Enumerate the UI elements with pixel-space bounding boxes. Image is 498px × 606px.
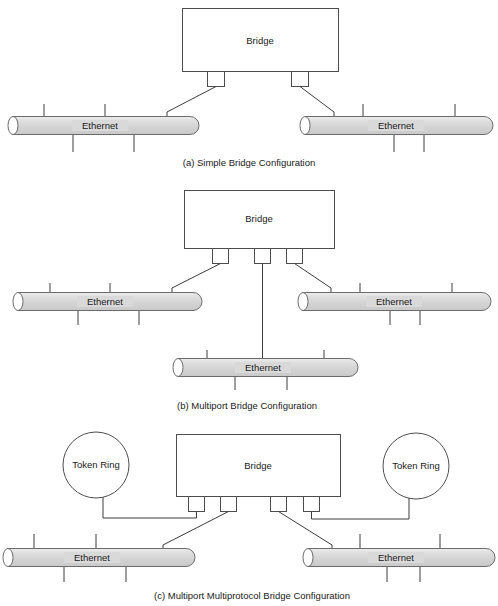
bridge-a-label: Bridge (246, 35, 273, 46)
caption-a: (a) Simple Bridge Configuration (183, 157, 316, 168)
caption-c: (c) Multiport Multiprotocol Bridge Confi… (154, 590, 350, 601)
ethernet-b-bottom-label: Ethernet (245, 362, 281, 373)
bridge-b-port-1[interactable] (213, 249, 229, 264)
bridge-b-ports (213, 249, 303, 264)
ethernet-c-left-label: Ethernet (74, 552, 110, 563)
bridge-a[interactable]: Bridge (183, 9, 339, 72)
ethernet-a-right-label: Ethernet (378, 120, 414, 131)
ethernet-a-right-cable-end (300, 117, 310, 135)
caption-b: (b) Multiport Bridge Configuration (177, 400, 317, 411)
bridge-c[interactable]: Bridge (177, 435, 341, 497)
ethernet-b-left-cable-end (13, 293, 23, 311)
token-ring-c-right-label: Token Ring (392, 460, 440, 471)
bridge-b-port-2[interactable] (255, 249, 271, 264)
bridge-c-label: Bridge (244, 460, 271, 471)
bridge-configurations-diagram: Bridge Ethernet (0, 0, 498, 606)
bridge-c-port-4[interactable] (304, 497, 320, 512)
bridge-a-port-2[interactable] (292, 72, 309, 87)
ethernet-b-bottom-cable-end (173, 359, 183, 377)
bridge-a-port-1[interactable] (208, 72, 225, 87)
bridge-c-port-2[interactable] (221, 497, 237, 512)
bridge-b-label: Bridge (245, 213, 272, 224)
ethernet-a-left-cable-end (8, 117, 18, 135)
bridge-b[interactable]: Bridge (185, 191, 335, 249)
ethernet-c-left-cable-end (3, 549, 13, 567)
ethernet-b-left-label: Ethernet (87, 296, 123, 307)
token-ring-c-right[interactable]: Token Ring (383, 433, 449, 499)
bridge-c-port-3[interactable] (271, 497, 287, 512)
bridge-b-port-3[interactable] (287, 249, 303, 264)
ethernet-b-right-label: Ethernet (376, 296, 412, 307)
ethernet-a-left-label: Ethernet (82, 120, 118, 131)
token-ring-c-left[interactable]: Token Ring (63, 432, 129, 498)
ethernet-c-right-cable-end (303, 549, 313, 567)
bridge-c-port-1[interactable] (189, 497, 205, 512)
ethernet-b-right-cable-end (298, 293, 308, 311)
ethernet-c-right-label: Ethernet (378, 552, 414, 563)
token-ring-c-left-label: Token Ring (72, 459, 120, 470)
